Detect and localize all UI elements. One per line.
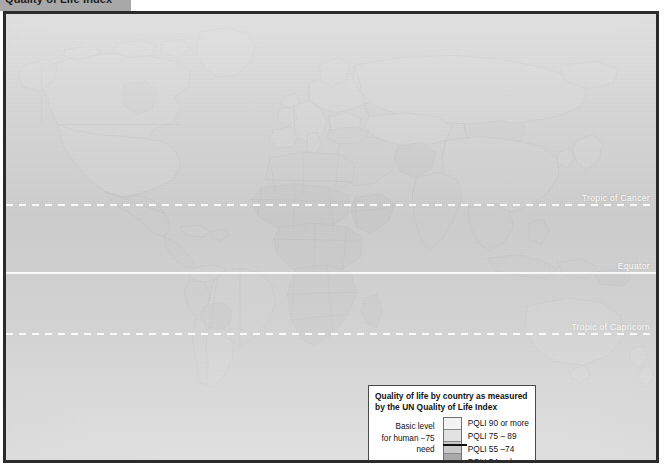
region-antarctic-edge (6, 452, 656, 460)
legend-title: Quality of life by country as measured b… (375, 391, 529, 412)
map-frame: Tropic of Cancer Equator Tropic of Capri… (3, 11, 659, 463)
world-map-svg (6, 14, 656, 460)
page-title: Quality of Life Index (5, 0, 112, 5)
legend-title-line-2: by the UN Quality of Life Index (375, 402, 529, 413)
legend-label-54-or-less: PQLI 54 or less (468, 456, 529, 463)
legend-body: Basic level for human −75 need PQLI 90 o… (375, 417, 529, 463)
map-legend: Quality of life by country as measured b… (368, 385, 536, 463)
world-map[interactable]: Tropic of Cancer Equator Tropic of Capri… (6, 14, 656, 460)
legend-swatch-54-or-less (444, 454, 461, 463)
legend-label-55-74: PQLI 55 –74 (468, 443, 529, 456)
legend-swatch-90-or-more (444, 418, 461, 430)
legend-label-75-89: PQLI 75 – 89 (468, 430, 529, 443)
legend-label-column: PQLI 90 or more PQLI 75 – 89 PQLI 55 –74… (468, 417, 529, 463)
basic-human-need-note: Basic level for human −75 need (375, 417, 436, 456)
legend-swatch-75-89 (444, 430, 461, 442)
window-title-bar: Quality of Life Index (0, 0, 131, 11)
legend-title-line-1: Quality of life by country as measured (375, 391, 529, 402)
basic-need-leader-line (443, 444, 467, 446)
legend-label-90-or-more: PQLI 90 or more (468, 417, 529, 430)
legend-swatch-column (443, 417, 462, 463)
